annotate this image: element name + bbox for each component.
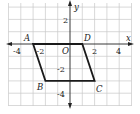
y-tick-neg2: -2 [57,65,65,74]
vertex-label-a: A [23,33,30,43]
y-axis-arrow-up-icon [68,0,72,6]
vertex-label-d: D [83,33,91,43]
x-tick-neg2: -2 [37,47,45,56]
x-axis-label: x [126,33,131,43]
x-axis-arrow-left-icon [6,42,12,46]
y-tick-neg4: -4 [57,90,65,99]
vertex-label-c: C [96,84,103,94]
origin-label: O [62,46,69,56]
coordinate-plane: -4 -2 2 4 2 -2 -4 x y O A B C D [0,0,140,114]
x-tick-2: 2 [92,47,97,56]
y-axis-arrow-down-icon [68,103,72,109]
y-axis-label: y [73,2,79,12]
y-tick-2: 2 [63,16,68,25]
x-tick-neg4: -4 [13,47,21,56]
vertex-label-b: B [36,82,43,92]
x-tick-4: 4 [116,47,121,56]
